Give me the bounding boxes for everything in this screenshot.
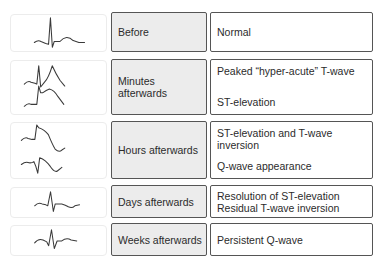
finding: Persistent Q-wave bbox=[217, 234, 366, 246]
hyperacute-and-st-elevation-ecg-traces bbox=[11, 61, 106, 114]
ecg-panel-before bbox=[10, 14, 107, 52]
finding: Resolution of ST-elevation bbox=[217, 190, 366, 202]
stage-label-hours: Hours afterwards bbox=[111, 121, 207, 179]
findings-before: Normal bbox=[210, 12, 373, 52]
ecg-panel-minutes bbox=[10, 60, 107, 115]
ecg-panel-weeks bbox=[10, 225, 107, 256]
stage-label-minutes: Minutes afterwards bbox=[111, 59, 207, 115]
persistent-q-wave-ecg-trace bbox=[11, 226, 106, 255]
st-t-inversion-and-q-wave-ecg-traces bbox=[11, 123, 106, 178]
finding: ST-elevation bbox=[217, 96, 366, 108]
normal-ecg-trace bbox=[11, 15, 106, 51]
findings-days: Resolution of ST-elevation Residual T-wa… bbox=[210, 185, 373, 218]
finding: Residual T-wave inversion bbox=[217, 202, 366, 214]
finding: ST-elevation and T-wave inversion bbox=[217, 127, 366, 151]
stage-label-weeks: Weeks afterwards bbox=[111, 223, 207, 256]
ecg-panel-hours bbox=[10, 122, 107, 179]
residual-t-inversion-ecg-trace bbox=[11, 188, 106, 217]
ecg-panel-days bbox=[10, 187, 107, 218]
stage-label-days: Days afterwards bbox=[111, 185, 207, 218]
findings-hours: ST-elevation and T-wave inversion Q-wave… bbox=[210, 121, 373, 179]
stage-label-before: Before bbox=[111, 12, 207, 52]
finding: Q-wave appearance bbox=[217, 160, 366, 172]
findings-weeks: Persistent Q-wave bbox=[210, 223, 373, 256]
findings-minutes: Peaked “hyper-acute” T-wave ST-elevation bbox=[210, 59, 373, 115]
finding: Peaked “hyper-acute” T-wave bbox=[217, 65, 366, 77]
finding: Normal bbox=[217, 26, 366, 38]
